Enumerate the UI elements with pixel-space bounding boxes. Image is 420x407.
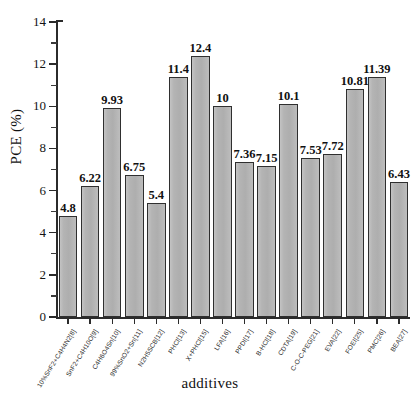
x-tick [398, 318, 399, 324]
bar-value-label: 11.39 [347, 62, 407, 77]
x-category-label-text: PHCl[13] [167, 328, 187, 355]
y-tick-14 [49, 21, 57, 23]
x-tick [200, 318, 201, 324]
x-tick [112, 318, 113, 324]
x-tick [244, 318, 245, 324]
y-tick-10 [49, 106, 57, 108]
x-category-label-text: LFA[16] [213, 328, 231, 352]
bar-value-label: 10.1 [259, 89, 319, 104]
x-tick [222, 318, 223, 324]
y-tick-0 [49, 316, 57, 318]
x-tick [156, 318, 157, 324]
x-category-label-text: BEA[27] [389, 328, 408, 353]
x-category-label-text: X+PHCl[15] [185, 328, 210, 362]
bar-value-label: 6.75 [104, 160, 164, 175]
y-tick-8 [49, 148, 57, 150]
y-tick-label-12: 12 [0, 56, 46, 72]
x-category-label-text: CDTA[19] [276, 328, 297, 357]
bar-value-label: 12.4 [170, 41, 230, 56]
y-tick-label-0: 0 [0, 309, 46, 325]
bar[interactable] [390, 182, 409, 317]
x-tick [376, 318, 377, 324]
bar-value-label: 5.4 [126, 188, 186, 203]
bar[interactable] [235, 162, 254, 317]
x-category-label-text: FOEI[25] [343, 328, 363, 355]
y-tick-label-10: 10 [0, 98, 46, 114]
y-tick-label-6: 6 [0, 183, 46, 199]
x-category-label-text: B-HCl[18] [254, 328, 276, 357]
y-tick-4 [49, 232, 57, 234]
x-tick [67, 318, 68, 324]
x-category-label-text: PMC[26] [366, 328, 386, 354]
y-tick-label-4: 4 [0, 225, 46, 241]
bar-value-label: 6.43 [369, 167, 420, 182]
x-tick [178, 318, 179, 324]
bar[interactable] [213, 106, 232, 317]
bar[interactable] [346, 89, 365, 317]
bar[interactable] [368, 77, 387, 317]
x-tick [332, 318, 333, 324]
y-axis-title: PCE (%) [8, 77, 25, 197]
x-category-label-text: EVA[22] [323, 328, 342, 352]
y-tick-label-8: 8 [0, 140, 46, 156]
y-tick-label-14: 14 [0, 14, 46, 30]
bar[interactable] [257, 166, 276, 317]
x-tick [134, 318, 135, 324]
x-axis-title: additives [0, 375, 420, 392]
x-tick [288, 318, 289, 324]
y-tick-2 [49, 274, 57, 276]
bar-chart: PCE (%) 02468101214 10%SnF2+C4H4N2[8]SnF… [0, 0, 420, 407]
bar-value-label: 10 [192, 91, 252, 106]
bar-value-label: 4.8 [38, 201, 98, 216]
y-tick-6 [49, 190, 57, 192]
x-tick [89, 318, 90, 324]
x-category-label-text: PPDI[17] [233, 328, 253, 355]
bar-value-label: 9.93 [82, 93, 142, 108]
bar-value-label: 7.72 [303, 139, 363, 154]
bar[interactable] [301, 158, 320, 317]
bar[interactable] [59, 216, 78, 317]
x-tick [266, 318, 267, 324]
y-tick-12 [49, 63, 57, 65]
x-tick [310, 318, 311, 324]
y-tick-label-2: 2 [0, 267, 46, 283]
bar[interactable] [279, 104, 298, 317]
bar-value-label: 11.4 [148, 62, 208, 77]
x-tick [354, 318, 355, 324]
